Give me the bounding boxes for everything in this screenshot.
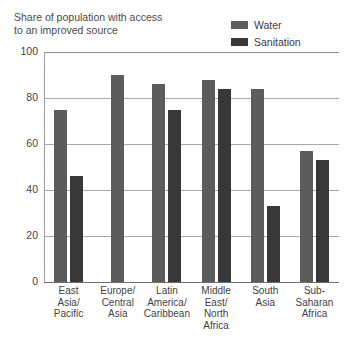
x-axis-category-labels: East Asia/ PacificEurope/ Central AsiaLa… [44,285,339,339]
y-tick-label-80: 80 [4,92,38,103]
y-tick-label-60: 60 [4,138,38,149]
bar-water [202,80,215,282]
gridline-0 [44,282,339,283]
bar-water [111,75,124,282]
x-tick-label: South Asia [241,285,290,339]
chart-legend: Water Sanitation [231,16,343,50]
chart-title: Share of population with access to an im… [14,11,224,37]
legend-item-sanitation: Sanitation [231,33,343,50]
bar-sanitation [316,160,329,282]
bar-group [241,52,290,282]
legend-swatch-water [231,21,248,29]
x-tick-label: Latin America/ Caribbean [142,285,191,339]
bar-chart: Share of population with access to an im… [0,0,349,339]
x-tick-label: Middle East/ North Africa [192,285,241,339]
x-tick-label: East Asia/ Pacific [44,285,93,339]
y-tick-label-40: 40 [4,184,38,195]
bar-sanitation [218,89,231,282]
y-axis-ticks: 100806040200 [0,52,38,283]
bar-group [192,52,241,282]
y-tick-label-20: 20 [4,230,38,241]
legend-label-water: Water [254,19,282,31]
bar-group [290,52,339,282]
bar-water [300,151,313,282]
legend-label-sanitation: Sanitation [254,36,301,48]
x-tick-label: Sub- Saharan Africa [290,285,339,339]
y-tick-label-0: 0 [4,276,38,287]
x-tick-label: Europe/ Central Asia [93,285,142,339]
bar-sanitation [168,110,181,283]
bar-group [44,52,93,282]
legend-item-water: Water [231,16,343,33]
bar-water [54,110,67,283]
bar-group [93,52,142,282]
legend-swatch-sanitation [231,38,248,46]
y-tick-label-100: 100 [4,46,38,57]
bar-sanitation [267,206,280,282]
bar-water [152,84,165,282]
bar-sanitation [70,176,83,282]
bar-group [142,52,191,282]
bar-water [251,89,264,282]
bar-groups [44,52,339,282]
